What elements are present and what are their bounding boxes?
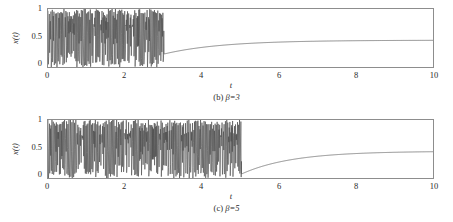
panel-caption-b-index: (b) [213,92,223,102]
x-tick-b-0: 0 [37,70,57,80]
x-tick-c-0: 0 [37,181,57,191]
x-axis-label-b: t [221,80,241,90]
x-tick-b-2: 2 [114,70,134,80]
plot-canvas-c [48,120,434,179]
x-tick-b-6: 6 [269,70,289,80]
x-tick-b-8: 8 [346,70,366,80]
x-tick-c-10: 10 [424,181,444,191]
y-axis-label-c: x(t) [10,133,20,165]
y-tick-b-0: 0 [20,58,42,68]
x-tick-c-2: 2 [114,181,134,191]
x-tick-c-8: 8 [346,181,366,191]
y-tick-c-0: 0 [20,169,42,179]
y-axis-label-b: x(t) [10,22,20,54]
y-tick-b-0point5: 0.5 [20,31,42,41]
x-tick-c-4: 4 [191,181,211,191]
x-tick-b-10: 10 [424,70,444,80]
x-tick-b-4: 4 [191,70,211,80]
panel-caption-b: (b) β=3 [0,92,453,102]
plot-canvas-b [48,9,434,68]
plot-frame-c [47,119,434,179]
panel-caption-c-param: β=5 [225,203,239,213]
y-tick-c-0point5: 0.5 [20,142,42,152]
chart-panel-c: x(t) 1 0.5 0 0 2 4 6 8 10 t (c) β=5 [0,111,453,222]
y-tick-b-1: 1 [20,3,42,13]
x-axis-label-c: t [221,191,241,201]
y-tick-c-1: 1 [20,114,42,124]
panel-caption-b-param: β=3 [225,92,239,102]
panel-caption-c: (c) β=5 [0,203,453,213]
chart-panel-b: x(t) 1 0.5 0 0 2 4 6 8 10 t (b) β=3 [0,0,453,111]
plot-frame-b [47,8,434,68]
x-tick-c-6: 6 [269,181,289,191]
panel-caption-c-index: (c) [214,203,223,213]
